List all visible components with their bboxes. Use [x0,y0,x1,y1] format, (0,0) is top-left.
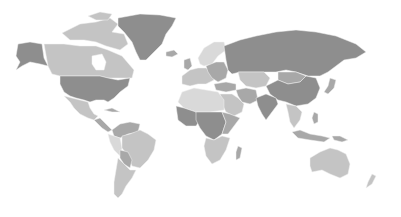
region-madagascar [236,146,242,160]
region-southern-africa [204,136,230,164]
region-cuba [104,108,120,112]
region-australia [310,148,350,178]
region-japan [324,78,336,94]
region-southeast-asia [286,104,302,128]
region-russia [224,30,366,76]
region-kazakhstan-central-asia [238,72,270,88]
region-uk-ireland [184,58,192,70]
region-new-zealand [366,174,376,188]
region-philippines [312,112,318,124]
region-iceland [166,50,178,57]
region-canadian-arctic-islands [88,12,112,20]
region-central-africa [196,112,226,140]
region-india [256,94,278,120]
region-central-america [94,118,112,132]
region-papua-new-guinea [332,136,348,142]
region-alaska [16,42,48,70]
region-indonesia [292,130,330,142]
region-turkey-caucasus [214,82,236,92]
world-map [0,0,401,217]
